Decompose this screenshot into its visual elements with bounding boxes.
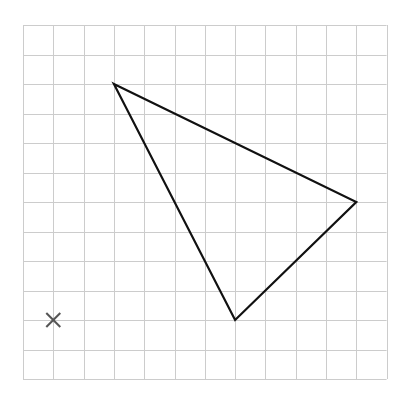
grid-diagram — [0, 0, 402, 395]
square-grid — [23, 25, 388, 380]
